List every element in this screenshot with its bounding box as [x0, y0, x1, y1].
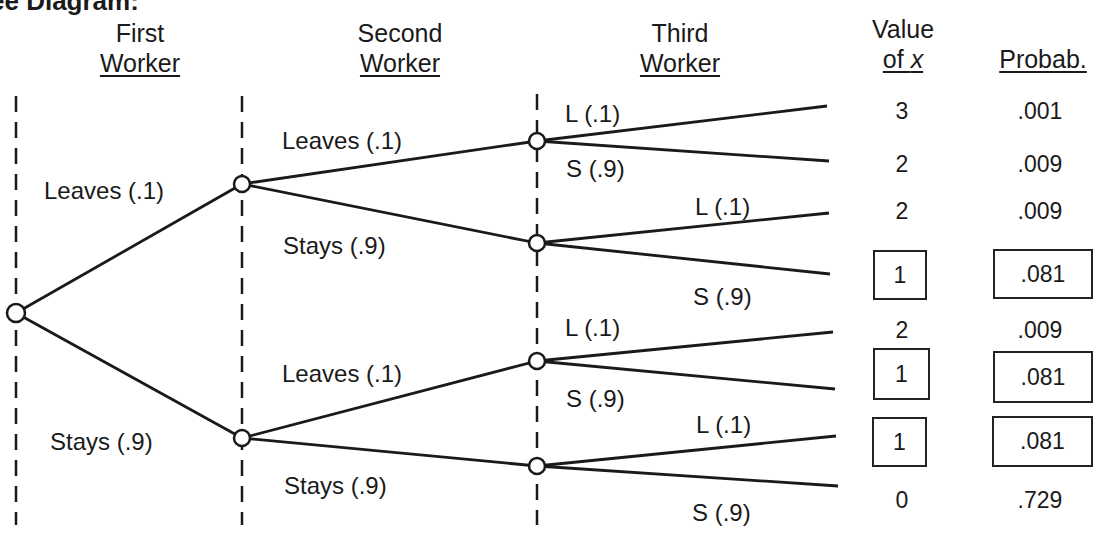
outcome-x-5: 2 — [880, 316, 924, 344]
branch-label-third-3-s: S (.9) — [566, 385, 625, 413]
node-first-stays — [234, 430, 250, 446]
branch-label-third-1-s: S (.9) — [566, 155, 625, 183]
outcome-x-6-boxed: 1 — [873, 348, 930, 400]
outcome-x-3: 2 — [880, 197, 924, 225]
node-sl — [529, 353, 545, 369]
branch-label-third-2-l: L (.1) — [695, 193, 750, 221]
outcome-p-5: .009 — [1000, 316, 1080, 344]
outcome-x-1: 3 — [880, 97, 924, 125]
outcome-p-8: .729 — [1000, 486, 1080, 514]
branch-label-third-3-l: L (.1) — [565, 314, 620, 342]
outcome-p-3: .009 — [1000, 197, 1080, 225]
node-ss — [529, 458, 545, 474]
node-ll — [529, 133, 545, 149]
outcome-x-7-boxed: 1 — [872, 417, 927, 467]
branch-label-second-top-stays: Stays (.9) — [283, 232, 386, 260]
outcome-x-4-boxed: 1 — [873, 250, 927, 300]
outcome-p-1: .001 — [1000, 97, 1080, 125]
branch-label-second-top-leaves: Leaves (.1) — [282, 127, 402, 155]
branch-label-first-stays: Stays (.9) — [50, 428, 153, 456]
outcome-p-4-boxed: .081 — [993, 249, 1093, 299]
branch-label-third-4-l: L (.1) — [696, 411, 751, 439]
branch-label-third-4-s: S (.9) — [692, 499, 751, 527]
branch-label-second-bottom-leaves: Leaves (.1) — [282, 360, 402, 388]
branch-label-first-leaves: Leaves (.1) — [44, 177, 164, 205]
branch-label-third-1-l: L (.1) — [565, 100, 620, 128]
outcome-x-8: 0 — [880, 486, 924, 514]
root-node — [7, 304, 25, 322]
outcome-x-2: 2 — [880, 150, 924, 178]
outcome-p-7-boxed: .081 — [992, 416, 1093, 467]
outcome-p-6-boxed: .081 — [993, 351, 1093, 403]
node-ls — [529, 235, 545, 251]
node-first-leaves — [234, 176, 250, 192]
branch-label-second-bottom-stays: Stays (.9) — [284, 472, 387, 500]
tree-diagram — [0, 0, 1106, 533]
branch-label-third-2-s: S (.9) — [693, 283, 752, 311]
outcome-p-2: .009 — [1000, 150, 1080, 178]
